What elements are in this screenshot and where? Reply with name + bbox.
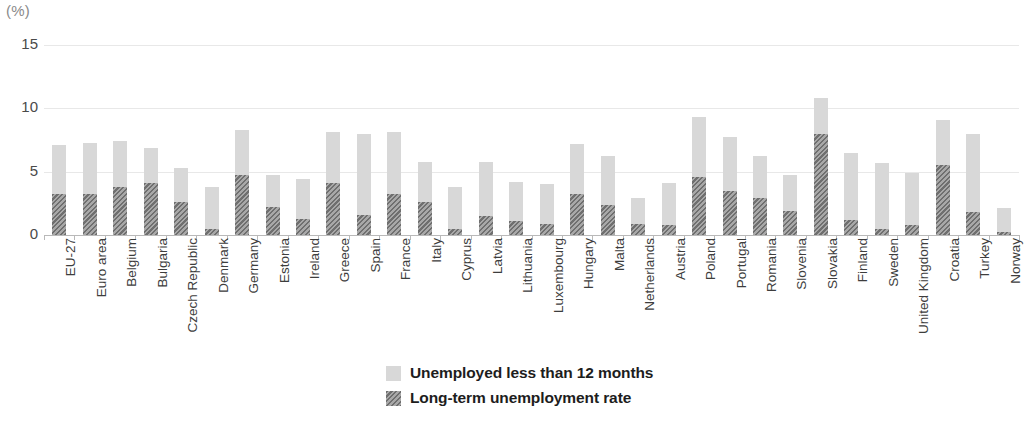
y-tick-label: 0	[8, 225, 38, 242]
bar-segment-long-term	[418, 202, 432, 235]
legend-label-long-term: Long-term unemployment rate	[410, 389, 631, 407]
bar-segment-short-term	[205, 187, 219, 229]
bar-segment-long-term	[905, 225, 919, 235]
bar-segment-long-term	[997, 232, 1011, 235]
bar-segment-long-term	[296, 219, 310, 235]
bar-group	[235, 130, 249, 235]
bar-group	[174, 168, 188, 235]
bar-segment-long-term	[448, 229, 462, 235]
x-category-label: Romania	[765, 238, 779, 292]
bar-group	[387, 132, 401, 235]
bar-segment-short-term	[448, 187, 462, 229]
unemployment-stacked-bar-chart: (%) 051015 EU-27Euro areaBelgiumBulgaria…	[0, 0, 1035, 425]
y-tick-label: 10	[8, 98, 38, 115]
x-category-label: Bulgaria	[156, 238, 170, 288]
x-category-label: France	[399, 238, 413, 280]
x-category-label: Finland	[856, 238, 870, 282]
bar-segment-short-term	[783, 175, 797, 210]
bar-segment-short-term	[357, 134, 371, 215]
bar-segment-short-term	[814, 98, 828, 133]
bar-segment-long-term	[723, 191, 737, 235]
bar-segment-short-term	[905, 173, 919, 225]
chart-legend: Unemployed less than 12 months Long-term…	[386, 364, 653, 414]
bar-group	[448, 187, 462, 235]
bar-segment-short-term	[83, 143, 97, 195]
bar-group	[844, 153, 858, 235]
bar-segment-long-term	[174, 202, 188, 235]
bar-group	[814, 98, 828, 235]
bar-group	[875, 163, 889, 235]
bar-group	[997, 208, 1011, 235]
bar-segment-long-term	[844, 220, 858, 235]
x-category-label: Slovakia	[826, 238, 840, 289]
x-category-label: Slovenia	[795, 238, 809, 290]
bar-segment-long-term	[692, 177, 706, 235]
bar-segment-long-term	[52, 194, 66, 235]
x-category-label: Latvia	[491, 238, 505, 274]
x-category-label: Poland	[704, 238, 718, 280]
bar-segment-long-term	[113, 187, 127, 235]
bar-segment-long-term	[540, 224, 554, 235]
bar-segment-short-term	[235, 130, 249, 176]
bar-segment-short-term	[570, 144, 584, 195]
x-category-label: Malta	[613, 238, 627, 271]
bar-group	[936, 120, 950, 235]
bar-series-container	[44, 45, 1019, 235]
x-axis-category-labels: EU-27Euro areaBelgiumBulgariaCzech Repub…	[44, 238, 1019, 353]
bar-group	[509, 182, 523, 235]
bar-segment-long-term	[570, 194, 584, 235]
bar-group	[905, 173, 919, 235]
x-category-label: Luxembourg	[552, 238, 566, 313]
bar-segment-long-term	[357, 215, 371, 235]
y-tick-label: 15	[8, 35, 38, 52]
bar-segment-long-term	[814, 134, 828, 235]
bar-group	[783, 175, 797, 235]
bar-segment-short-term	[844, 153, 858, 220]
bar-segment-short-term	[52, 145, 66, 194]
x-category-label: Spain	[369, 238, 383, 273]
x-category-label: United Kingdom	[917, 238, 931, 334]
bar-segment-long-term	[601, 205, 615, 235]
bar-group	[570, 144, 584, 235]
x-category-label: Turkey	[978, 238, 992, 279]
bar-group	[662, 183, 676, 235]
bar-group	[296, 179, 310, 235]
bar-segment-short-term	[997, 208, 1011, 232]
x-category-label: Croatia	[948, 238, 962, 282]
bar-group	[966, 134, 980, 235]
y-axis-unit-label: (%)	[6, 2, 30, 19]
bar-segment-short-term	[266, 175, 280, 207]
bar-group	[52, 145, 66, 235]
bar-segment-long-term	[83, 194, 97, 235]
bar-group	[753, 156, 767, 235]
bar-group	[113, 141, 127, 235]
bar-segment-short-term	[144, 148, 158, 183]
bar-segment-long-term	[266, 207, 280, 235]
x-category-label: Lithuania	[521, 238, 535, 293]
bar-segment-short-term	[113, 141, 127, 187]
bar-segment-short-term	[479, 162, 493, 216]
x-category-label: Cyprus	[460, 238, 474, 281]
x-category-label: Portugal	[735, 238, 749, 288]
bar-segment-long-term	[936, 165, 950, 235]
bar-segment-long-term	[662, 225, 676, 235]
bar-group	[723, 137, 737, 235]
bar-segment-long-term	[966, 212, 980, 235]
x-category-label: Greece	[338, 238, 352, 282]
x-category-label: Denmark	[217, 238, 231, 293]
bar-group	[205, 187, 219, 235]
bar-group	[540, 184, 554, 235]
bar-segment-short-term	[662, 183, 676, 225]
x-category-label: Hungary	[582, 238, 596, 289]
bar-group	[326, 132, 340, 235]
bar-segment-long-term	[387, 194, 401, 235]
bar-segment-short-term	[936, 120, 950, 166]
x-category-label: Italy	[430, 238, 444, 263]
bar-segment-short-term	[753, 156, 767, 198]
bar-group	[601, 156, 615, 235]
x-category-label: Sweden	[887, 238, 901, 287]
plot-area: 051015	[44, 45, 1019, 235]
bar-segment-short-term	[692, 117, 706, 177]
legend-item-long-term: Long-term unemployment rate	[386, 389, 653, 407]
legend-swatch-long-term-icon	[386, 391, 401, 406]
